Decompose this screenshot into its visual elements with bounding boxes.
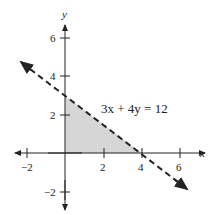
x-tick-label: 4 xyxy=(138,161,144,173)
equation-label: 3x + 4y = 12 xyxy=(101,101,168,116)
x-tick-label: 2 xyxy=(100,161,106,173)
y-axis-label: y xyxy=(61,8,67,20)
y-tick-label: 4 xyxy=(50,70,56,82)
graph: −2 2 4 6 6 4 2 −2 x y 3x + 4y = 12 xyxy=(0,0,219,215)
y-tick-label: 6 xyxy=(50,32,56,44)
y-tick-label: −2 xyxy=(44,186,56,198)
x-axis-label: x xyxy=(199,147,205,159)
x-tick-label: 6 xyxy=(176,161,182,173)
y-tick-label: 2 xyxy=(50,109,56,121)
x-tick-label: −2 xyxy=(21,161,33,173)
